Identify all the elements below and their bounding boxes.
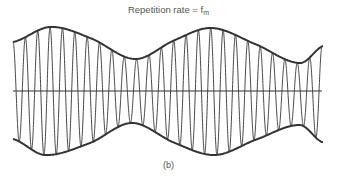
figure-caption: (b) (0, 160, 337, 170)
envelope-bottom (13, 123, 323, 155)
envelope-top (13, 27, 323, 63)
am-waveform-diagram (0, 0, 337, 182)
